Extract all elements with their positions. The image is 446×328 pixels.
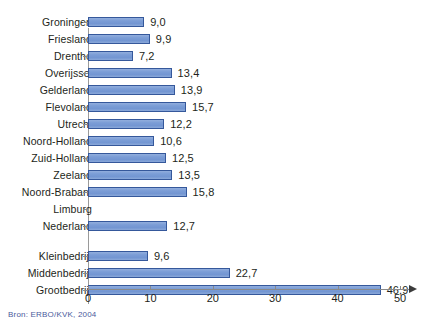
chart-row: Middenbedrijf22,7 bbox=[0, 265, 446, 282]
bar-value-label: 13,9 bbox=[181, 82, 203, 99]
chart-row: Overijssel13,4 bbox=[0, 65, 446, 82]
bar bbox=[88, 170, 172, 180]
x-axis-tick bbox=[400, 286, 401, 290]
x-axis-tick bbox=[150, 286, 151, 290]
axis-arrow-icon bbox=[409, 285, 417, 293]
bar bbox=[88, 187, 187, 197]
source-note: Bron: ERBO/KVK, 2004 bbox=[8, 310, 97, 319]
chart-row: Flevoland15,7 bbox=[0, 99, 446, 116]
bar-value-label: 15,8 bbox=[193, 184, 215, 201]
value-axis-line bbox=[88, 289, 413, 290]
bar bbox=[88, 251, 148, 261]
chart-row: Nederland12,7 bbox=[0, 218, 446, 235]
x-axis-tick-label: 0 bbox=[85, 292, 91, 304]
category-label: Noord-Holland bbox=[23, 133, 92, 150]
bar-value-label: 12,2 bbox=[170, 116, 192, 133]
bar-value-label: 12,5 bbox=[172, 150, 194, 167]
bar-value-label: 13,5 bbox=[178, 167, 200, 184]
bar bbox=[88, 119, 164, 129]
x-axis-tick bbox=[213, 286, 214, 290]
chart-row: Noord-Holland10,6 bbox=[0, 133, 446, 150]
plot-area: Groningen9,0Friesland9,9Drenthe7,2Overij… bbox=[0, 14, 446, 289]
x-axis-tick-label: 40 bbox=[331, 292, 343, 304]
bar-value-label: 15,7 bbox=[192, 99, 214, 116]
bar-value-label: 9,0 bbox=[150, 14, 166, 31]
bar bbox=[88, 51, 133, 61]
bar bbox=[88, 85, 175, 95]
chart-row: Gelderland13,9 bbox=[0, 82, 446, 99]
chart-row: Limburg bbox=[0, 201, 446, 218]
bar bbox=[88, 68, 172, 78]
chart-row: Friesland9,9 bbox=[0, 31, 446, 48]
chart-row: Noord-Brabant15,8 bbox=[0, 184, 446, 201]
chart-row: Zuid-Holland12,5 bbox=[0, 150, 446, 167]
bar-chart: Groningen9,0Friesland9,9Drenthe7,2Overij… bbox=[0, 0, 446, 328]
x-axis-tick-label: 30 bbox=[269, 292, 281, 304]
bar-value-label: 13,4 bbox=[178, 65, 200, 82]
chart-row: Groningen9,0 bbox=[0, 14, 446, 31]
bar-value-label: 22,7 bbox=[236, 265, 258, 282]
category-tick bbox=[83, 209, 88, 210]
bar bbox=[88, 221, 167, 231]
bar bbox=[88, 136, 154, 146]
chart-row: Utrecht12,2 bbox=[0, 116, 446, 133]
chart-row: Zeeland13,5 bbox=[0, 167, 446, 184]
bar bbox=[88, 102, 186, 112]
x-axis-tick bbox=[338, 286, 339, 290]
bar-value-label: 7,2 bbox=[139, 48, 155, 65]
x-axis-tick-label: 10 bbox=[144, 292, 156, 304]
bar bbox=[88, 268, 230, 278]
bar-value-label: 9,6 bbox=[154, 248, 170, 265]
bar-value-label: 12,7 bbox=[173, 218, 195, 235]
chart-row: Grootbedrijf46,9 bbox=[0, 282, 446, 299]
x-axis-tick bbox=[275, 286, 276, 290]
bar-value-label: 9,9 bbox=[156, 31, 172, 48]
bar bbox=[88, 153, 166, 163]
x-axis-tick bbox=[88, 286, 89, 290]
bar bbox=[88, 34, 150, 44]
chart-row: Kleinbedrijf9,6 bbox=[0, 248, 446, 265]
x-axis-tick-label: 20 bbox=[207, 292, 219, 304]
bar bbox=[88, 17, 144, 27]
x-axis-tick-label: 50 bbox=[394, 292, 406, 304]
category-label: Noord-Brabant bbox=[22, 184, 92, 201]
bar-value-label: 10,6 bbox=[160, 133, 182, 150]
chart-row: Drenthe7,2 bbox=[0, 48, 446, 65]
